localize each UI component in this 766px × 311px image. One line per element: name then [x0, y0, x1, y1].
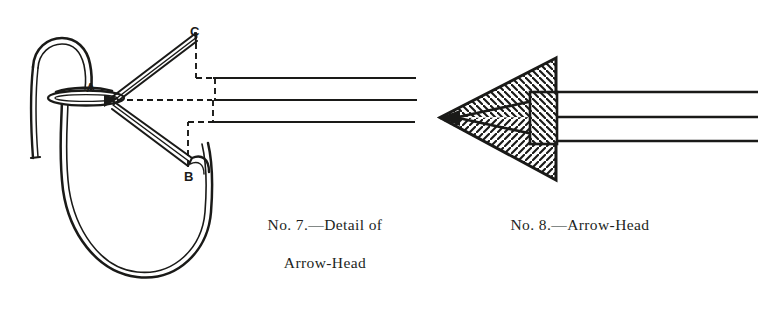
- caption-figure-8: No. 8.—Arrow-Head: [470, 196, 690, 253]
- fig8-shaft-lines: [556, 92, 758, 141]
- figure-label-b: B: [184, 170, 193, 183]
- arrow-head-socket: [530, 92, 557, 144]
- caption-figure-8-line-1: No. 8.—Arrow-Head: [470, 215, 690, 234]
- illustration-plate: A B C No. 7.—Detail of Arrow-Head No. 8.…: [0, 0, 766, 311]
- caption-figure-7: No. 7.—Detail of Arrow-Head: [232, 196, 418, 291]
- figure-label-c: C: [190, 25, 199, 38]
- fig7-shaft-lines: [212, 78, 417, 122]
- construction-dashed-lines: [117, 33, 216, 166]
- figure-label-a: A: [86, 81, 95, 94]
- caption-figure-7-line-2: Arrow-Head: [232, 253, 418, 272]
- figure-8-artwork: [440, 58, 758, 180]
- wire-lower-loop: [60, 97, 212, 278]
- caption-figure-7-line-1: No. 7.—Detail of: [232, 215, 418, 234]
- wire-left-tail: [31, 67, 40, 158]
- prong-a-to-c: [112, 33, 197, 104]
- prong-a-to-b: [112, 101, 192, 166]
- wire-hook-top: [33, 38, 92, 89]
